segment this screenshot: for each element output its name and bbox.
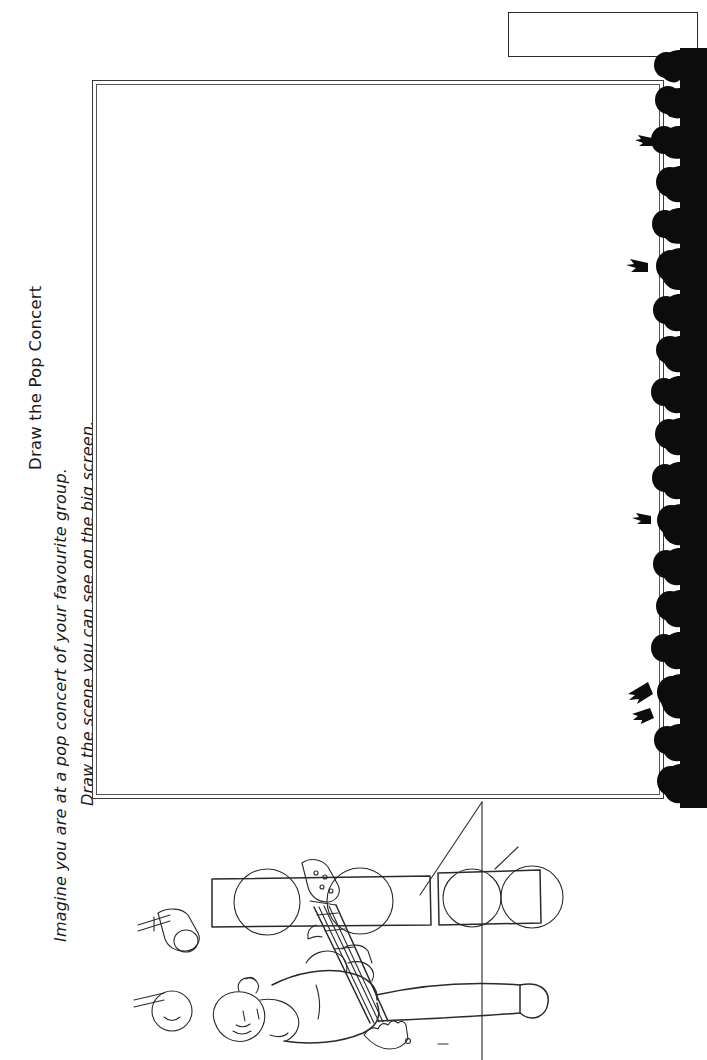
speaker-cabinet-left xyxy=(212,868,431,935)
microphone-upper xyxy=(138,909,199,952)
drawing-area[interactable] xyxy=(101,89,655,790)
name-box[interactable] xyxy=(508,12,698,57)
electric-guitar xyxy=(302,860,388,1023)
instruction-line-1: Imagine you are at a pop concert of your… xyxy=(51,468,70,942)
speaker-cabinet-right xyxy=(438,866,563,928)
page-title: Draw the Pop Concert xyxy=(26,286,45,470)
microphone-lower xyxy=(134,991,192,1031)
stage-support-lines xyxy=(90,790,650,1060)
stage-scene-illustration xyxy=(120,845,570,1059)
guitarist xyxy=(213,945,548,1049)
drawing-frame xyxy=(92,80,664,799)
